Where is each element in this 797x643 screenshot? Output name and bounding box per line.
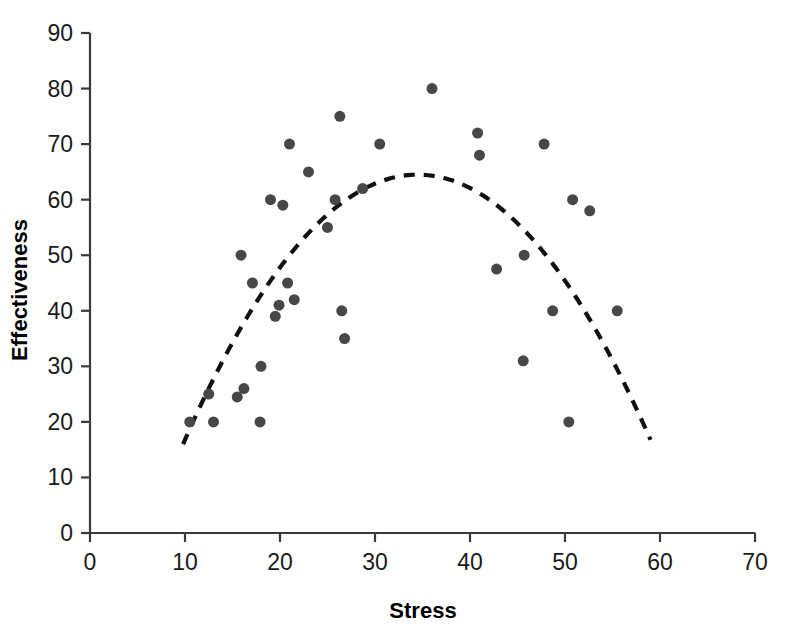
data-point <box>236 250 247 261</box>
data-point <box>265 194 276 205</box>
trend-curve <box>183 175 650 444</box>
y-tick-label: 0 <box>60 520 73 546</box>
data-point <box>539 139 550 150</box>
data-point <box>339 333 350 344</box>
data-point <box>547 305 558 316</box>
y-axis-title: Effectiveness <box>7 219 32 361</box>
y-tick-label: 40 <box>47 298 73 324</box>
scatter-chart: 0102030405060708090010203040506070 Stres… <box>0 0 797 643</box>
plot-area: 0102030405060708090010203040506070 Stres… <box>0 0 797 643</box>
data-point <box>567 194 578 205</box>
data-point <box>184 416 195 427</box>
data-point <box>208 416 219 427</box>
trend-line-path <box>183 175 650 444</box>
y-tick-label: 10 <box>47 464 73 490</box>
data-points <box>184 83 623 427</box>
data-point <box>284 139 295 150</box>
y-tick-label: 80 <box>47 76 73 102</box>
tick-labels: 0102030405060708090010203040506070 <box>47 20 767 575</box>
data-point <box>357 183 368 194</box>
data-point <box>584 205 595 216</box>
data-point <box>274 300 285 311</box>
data-point <box>491 264 502 275</box>
data-point <box>427 83 438 94</box>
data-point <box>247 278 258 289</box>
y-tick-label: 30 <box>47 353 73 379</box>
data-point <box>203 389 214 400</box>
data-point <box>238 383 249 394</box>
data-point <box>563 416 574 427</box>
y-tick-label: 60 <box>47 187 73 213</box>
data-point <box>474 150 485 161</box>
y-tick-label: 70 <box>47 131 73 157</box>
x-axis-title: Stress <box>389 598 456 623</box>
data-point <box>472 128 483 139</box>
x-tick-label: 10 <box>172 549 198 575</box>
data-point <box>277 200 288 211</box>
y-tick-label: 90 <box>47 20 73 46</box>
x-tick-label: 60 <box>647 549 673 575</box>
y-tick-label: 50 <box>47 242 73 268</box>
data-point <box>256 361 267 372</box>
data-point <box>322 222 333 233</box>
data-point <box>270 311 281 322</box>
x-tick-label: 0 <box>84 549 97 575</box>
data-point <box>289 294 300 305</box>
data-point <box>255 416 266 427</box>
x-tick-label: 20 <box>267 549 293 575</box>
data-point <box>374 139 385 150</box>
x-tick-label: 30 <box>362 549 388 575</box>
data-point <box>519 250 530 261</box>
x-tick-label: 50 <box>552 549 578 575</box>
data-point <box>282 278 293 289</box>
data-point <box>334 111 345 122</box>
y-tick-label: 20 <box>47 409 73 435</box>
x-tick-label: 40 <box>457 549 483 575</box>
data-point <box>612 305 623 316</box>
data-point <box>330 194 341 205</box>
x-tick-label: 70 <box>742 549 768 575</box>
data-point <box>336 305 347 316</box>
data-point <box>303 166 314 177</box>
axes <box>81 33 755 542</box>
data-point <box>518 355 529 366</box>
